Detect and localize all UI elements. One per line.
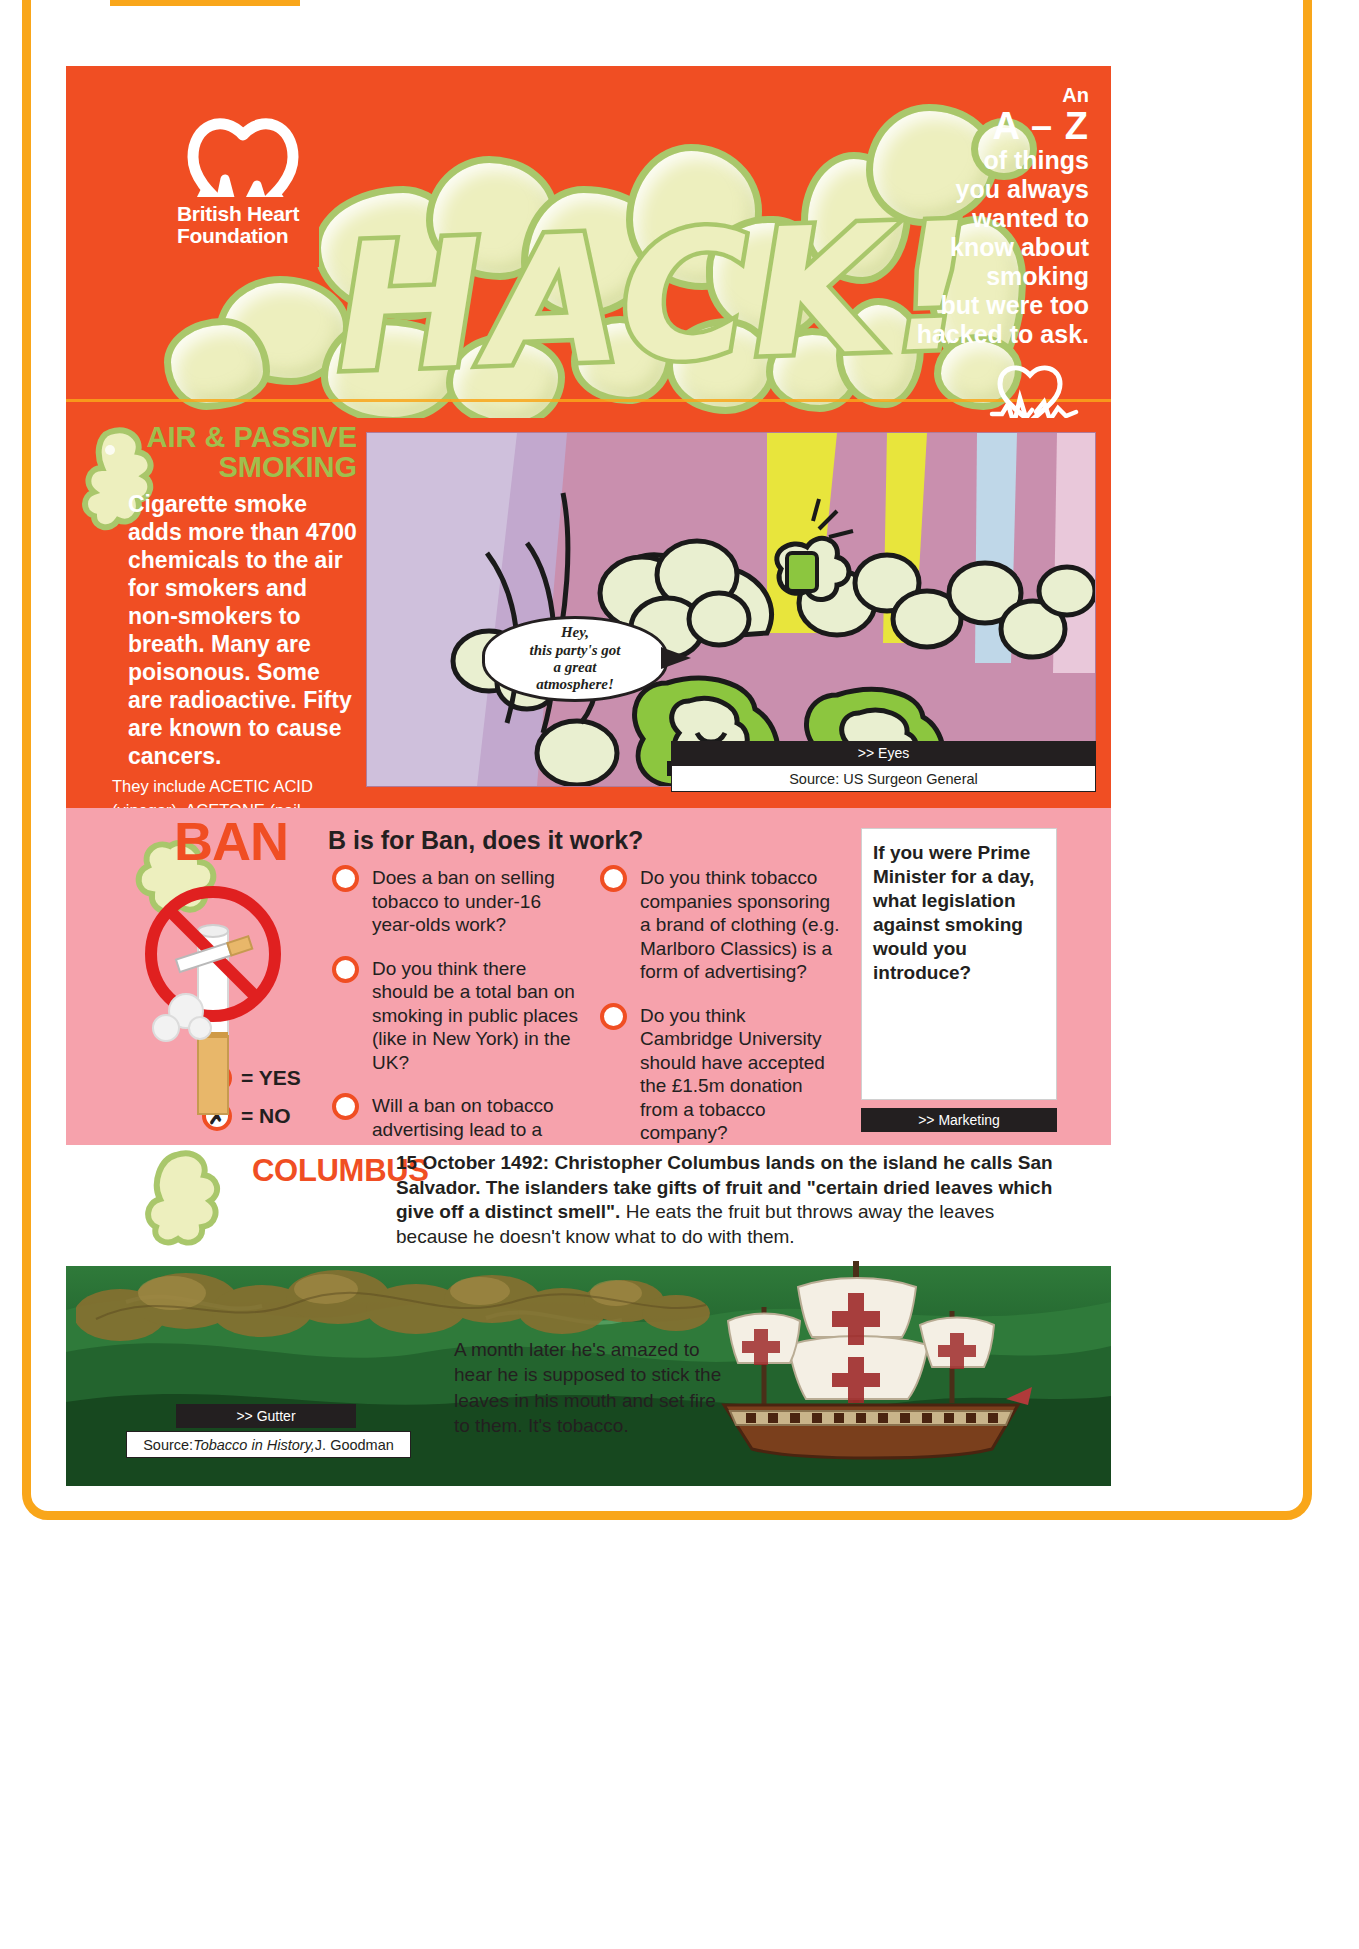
answer-radio-icon[interactable] <box>600 865 627 892</box>
az-line-0: of things <box>859 146 1089 175</box>
bhf-logo: British Heart Foundation <box>171 99 326 267</box>
columbus-source-title: Tobacco in History, <box>193 1437 315 1453</box>
speech-bubble: Hey, this party's got a great atmosphere… <box>482 616 668 702</box>
air-lead-paragraph: Cigarette smoke adds more than 4700 chem… <box>82 490 357 770</box>
columbus-second-paragraph: A month later he's amazed to hear he is … <box>454 1337 729 1438</box>
air-source-bar: Source: US Surgeon General <box>671 765 1096 792</box>
bubble-line2: this party's got <box>530 642 621 659</box>
section-ban: BAN B is for Ban, does it work? Does a b… <box>66 808 1111 1145</box>
ban-question-item[interactable]: Do you think there should be a total ban… <box>328 957 578 1075</box>
az-line-3: know about <box>859 233 1089 262</box>
bhf-logo-line2: Foundation <box>177 225 319 247</box>
ban-question-item[interactable]: Do you think tobacco companies sponsorin… <box>596 866 841 984</box>
air-section-title: AIR & PASSIVE SMOKING <box>82 422 357 483</box>
az-line-1: you always <box>859 175 1089 204</box>
az-line-5: but were too <box>859 291 1089 320</box>
ban-letter-word: BAN <box>174 810 288 872</box>
bubble-line3: a great <box>530 659 621 676</box>
az-line-2: wanted to <box>859 204 1089 233</box>
ban-question-text: Do you think Cambridge University should… <box>640 1005 825 1144</box>
smoke-blob <box>142 1149 238 1249</box>
air-title-line2: SMOKING <box>134 452 357 482</box>
air-fine-paragraph: They include ACETIC ACID (vinegar), ACET… <box>82 775 357 808</box>
magazine-spread: HACK! British Heart Foundation An A – Z … <box>66 66 1111 1486</box>
header-divider <box>66 399 1111 402</box>
columbus-cross-reference-label: >> Gutter <box>236 1408 295 1424</box>
answer-radio-icon[interactable] <box>332 1093 359 1120</box>
columbus-cross-reference-bar[interactable]: >> Gutter <box>176 1404 356 1428</box>
header-banner: HACK! British Heart Foundation An A – Z … <box>66 66 1111 418</box>
page-frame: HACK! British Heart Foundation An A – Z … <box>0 0 1359 1949</box>
air-text-column: AIR & PASSIVE SMOKING Cigarette smoke ad… <box>82 422 357 808</box>
party-illustration: Hey, this party's got a great atmosphere… <box>366 432 1096 787</box>
section-columbus: COLUMBUS 15 October 1492: Christopher Co… <box>66 1145 1111 1486</box>
columbus-source-prefix: Source: <box>143 1437 193 1453</box>
answer-radio-icon[interactable] <box>332 865 359 892</box>
az-letters: A – Z <box>859 107 1089 146</box>
ban-question-item[interactable]: Will a ban on tobacco advertising lead t… <box>328 1094 578 1145</box>
ban-question-heading: B is for Ban, does it work? <box>328 826 643 855</box>
bhf-logo-line1: British Heart <box>177 203 319 225</box>
section-air-passive-smoking: AIR & PASSIVE SMOKING Cigarette smoke ad… <box>66 418 1111 808</box>
bhf-logo-textbox: British Heart Foundation <box>171 197 319 267</box>
az-line-6: hacked to ask. <box>859 320 1089 349</box>
air-cross-reference-bar[interactable]: >> Eyes <box>671 741 1096 765</box>
prime-minister-prompt: If you were Prime Minister for a day, wh… <box>873 842 1034 983</box>
party-illustration-art <box>367 433 1095 786</box>
header-heart-icon <box>986 362 1081 418</box>
sailing-ship-art <box>706 1253 1036 1468</box>
az-an: An <box>859 84 1089 107</box>
ban-cross-reference-bar[interactable]: >> Marketing <box>861 1108 1057 1132</box>
ban-questions-left-column: Does a ban on selling tobacco to under-1… <box>328 866 578 1145</box>
columbus-source-suffix: J. Goodman <box>315 1437 394 1453</box>
ban-question-item[interactable]: Does a ban on selling tobacco to under-1… <box>328 866 578 937</box>
columbus-body-paragraph: 15 October 1492: Christopher Columbus la… <box>396 1151 1056 1249</box>
ban-question-text: Do you think tobacco companies sponsorin… <box>640 867 840 982</box>
prime-minister-answer-box[interactable]: If you were Prime Minister for a day, wh… <box>861 828 1057 1100</box>
answer-radio-icon[interactable] <box>332 956 359 983</box>
bubble-line4: atmosphere! <box>530 676 621 693</box>
ban-question-item[interactable]: Do you think Cambridge University should… <box>596 1004 841 1145</box>
no-smoking-cigarette-art <box>126 836 316 1136</box>
answer-radio-icon[interactable] <box>600 1003 627 1030</box>
az-intro-block: An A – Z of things you always wanted to … <box>859 84 1089 349</box>
ban-question-text: Does a ban on selling tobacco to under-1… <box>372 867 555 935</box>
smoke-trail-art <box>76 1257 716 1349</box>
az-line-4: smoking <box>859 262 1089 291</box>
ban-question-text: Do you think there should be a total ban… <box>372 958 578 1073</box>
bubble-line1: Hey, <box>530 624 621 641</box>
ban-question-text: Will a ban on tobacco advertising lead t… <box>372 1095 554 1145</box>
air-title-line1: AIR & PASSIVE <box>134 422 357 452</box>
columbus-source-bar: Source: Tobacco in History, J. Goodman <box>126 1431 411 1458</box>
ban-questions-right-column: Do you think tobacco companies sponsorin… <box>596 866 841 1145</box>
air-source-label: Source: US Surgeon General <box>789 771 978 787</box>
air-cross-reference-label: >> Eyes <box>858 745 909 761</box>
ban-cross-reference-label: >> Marketing <box>918 1112 1000 1128</box>
